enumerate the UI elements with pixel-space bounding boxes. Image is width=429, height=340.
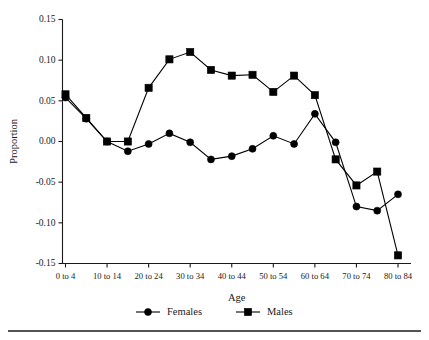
data-point-marker — [270, 132, 277, 139]
x-tick-label: 80 to 84 — [384, 271, 413, 281]
y-tick-label: 0.10 — [39, 55, 56, 65]
data-point-marker — [394, 252, 401, 259]
data-point-marker — [103, 138, 110, 145]
line-chart: 0.150.100.050.00-0.05-0.10-0.150 to 410 … — [0, 0, 429, 340]
legend-entry-females: Females — [136, 306, 202, 317]
x-tick-label: 30 to 34 — [176, 271, 205, 281]
y-tick-label: 0.05 — [39, 96, 56, 106]
legend-entry-males: Males — [236, 306, 293, 317]
x-tick-label: 20 to 24 — [135, 271, 164, 281]
chart-figure: 0.150.100.050.00-0.05-0.10-0.150 to 410 … — [0, 0, 429, 340]
y-tick-label: -0.10 — [36, 218, 56, 228]
data-point-marker — [311, 92, 318, 99]
series-females — [62, 94, 402, 214]
data-point-marker — [228, 72, 235, 79]
x-tick-label: 70 to 74 — [342, 271, 371, 281]
data-point-marker — [311, 110, 318, 117]
data-point-marker — [395, 191, 402, 198]
data-point-marker — [166, 56, 173, 63]
data-point-marker — [145, 84, 152, 91]
x-tick-label: 10 to 14 — [93, 271, 122, 281]
data-point-marker — [332, 156, 339, 163]
data-point-marker — [228, 153, 235, 160]
x-tick-label: 0 to 4 — [56, 271, 76, 281]
data-point-marker — [374, 207, 381, 214]
y-axis-ticks: 0.150.100.050.00-0.05-0.10-0.15 — [36, 14, 63, 268]
data-point-marker — [145, 140, 152, 147]
data-point-marker — [124, 138, 131, 145]
data-point-marker — [332, 139, 339, 146]
legend: FemalesMales — [136, 306, 293, 317]
legend-label: Females — [167, 306, 202, 317]
x-tick-label: 50 to 54 — [259, 271, 288, 281]
y-tick-label: 0.15 — [39, 14, 56, 24]
y-tick-label: 0.00 — [39, 136, 56, 146]
data-point-marker — [187, 139, 194, 146]
data-point-marker — [291, 140, 298, 147]
y-axis-title: Proportion — [8, 118, 19, 164]
x-tick-label: 60 to 64 — [301, 271, 330, 281]
legend-marker-square — [244, 308, 251, 315]
x-tick-label: 40 to 44 — [218, 271, 247, 281]
data-point-marker — [166, 130, 173, 137]
y-tick-label: -0.05 — [36, 177, 56, 187]
data-point-marker — [83, 114, 90, 121]
data-point-marker — [353, 203, 360, 210]
data-point-marker — [207, 156, 214, 163]
y-tick-label: -0.15 — [36, 258, 56, 268]
data-point-marker — [270, 88, 277, 95]
legend-label: Males — [267, 306, 293, 317]
data-point-marker — [124, 148, 131, 155]
x-axis-title: Age — [228, 292, 246, 303]
data-point-marker — [374, 168, 381, 175]
data-point-marker — [187, 48, 194, 55]
legend-marker-circle — [145, 309, 152, 316]
x-axis-ticks: 0 to 410 to 1420 to 2430 to 3440 to 4450… — [56, 264, 413, 281]
data-point-marker — [290, 72, 297, 79]
data-point-marker — [62, 91, 69, 98]
data-point-marker — [353, 182, 360, 189]
data-point-marker — [249, 71, 256, 78]
data-point-marker — [249, 145, 256, 152]
data-point-marker — [207, 66, 214, 73]
